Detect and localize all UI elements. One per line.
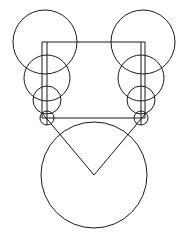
figure-canvas: geometric-line-drawing <box>0 0 189 242</box>
geometric-line-drawing: geometric-line-drawing <box>0 0 189 242</box>
canvas-background <box>0 0 189 242</box>
